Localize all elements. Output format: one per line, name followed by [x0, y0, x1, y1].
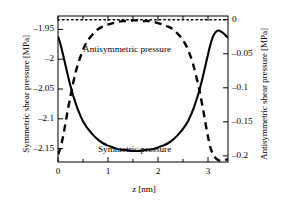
- y-tick-label-right: 0: [232, 14, 272, 24]
- y-tick-label-left: –2: [2, 53, 54, 63]
- x-axis-title: z [nm]: [58, 184, 230, 194]
- y-tick-label-right: –0.15: [232, 116, 272, 126]
- y-tick-label-left: –2.15: [2, 143, 54, 153]
- x-tick-label: 3: [196, 166, 220, 176]
- y-tick-label-right: –0.05: [232, 48, 272, 58]
- series-annotation-symmetric: Symmetric pressure: [98, 144, 171, 154]
- y-tick-label-right: –0.1: [232, 82, 272, 92]
- y-tick-label-right: –0.2: [232, 150, 272, 160]
- y-tick-label-left: –2.1: [2, 113, 54, 123]
- x-tick-label: 1: [96, 166, 120, 176]
- figure-chart: Symmetric shear pressure [MPa] Antisymme…: [0, 0, 286, 205]
- plot-frame: [58, 16, 228, 162]
- x-tick-label: 2: [146, 166, 170, 176]
- y-tick-label-left: –1.95: [2, 23, 54, 33]
- series-annotation-antisymmetric: Antisymmetric pressure: [83, 44, 171, 54]
- y-tick-label-left: –2.05: [2, 83, 54, 93]
- x-tick-label: 0: [46, 166, 70, 176]
